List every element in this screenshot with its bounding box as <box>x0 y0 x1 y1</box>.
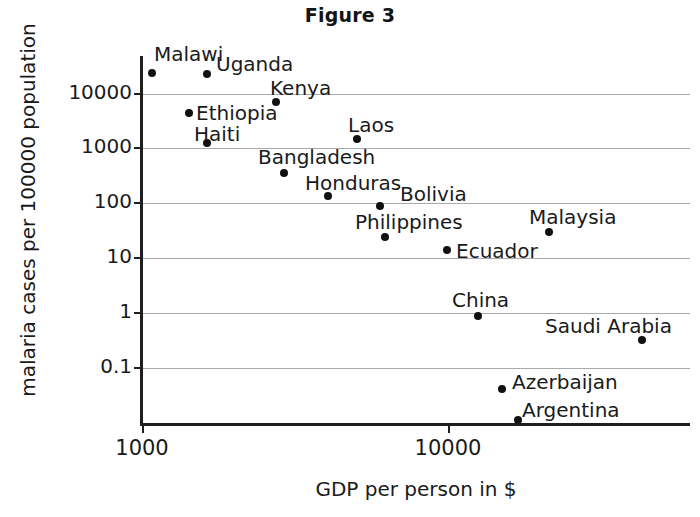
data-point[interactable] <box>474 312 482 320</box>
data-point-label: Malaysia <box>529 205 616 229</box>
data-point[interactable] <box>545 228 553 236</box>
data-point-label: Kenya <box>270 76 331 100</box>
data-point-label: Saudi Arabia <box>545 314 672 338</box>
gridline-y <box>142 148 690 149</box>
gridline-y <box>142 94 690 95</box>
y-axis-title: malaria cases per 100000 population <box>16 0 40 460</box>
data-point-label: Haiti <box>194 122 240 146</box>
data-point[interactable] <box>498 385 506 393</box>
data-point[interactable] <box>514 416 522 424</box>
data-point-label: Azerbaijan <box>512 370 618 394</box>
data-point-label: Bolivia <box>400 182 467 206</box>
y-tick-mark <box>134 147 143 149</box>
data-point[interactable] <box>280 169 288 177</box>
x-tick-mark <box>142 424 144 433</box>
data-point-label: Honduras <box>305 171 401 195</box>
x-axis-title: GDP per person in $ <box>142 477 690 501</box>
y-tick-mark <box>134 367 143 369</box>
data-point-label: Philippines <box>355 210 463 234</box>
x-tick-mark <box>448 424 450 433</box>
data-point[interactable] <box>381 233 389 241</box>
data-point-label: China <box>452 288 509 312</box>
data-point-label: Bangladesh <box>258 145 375 169</box>
y-tick-mark <box>134 312 143 314</box>
y-tick-mark <box>134 257 143 259</box>
x-tick-label: 1000 <box>62 436 222 460</box>
plot-area: 1000010001001010.1100010000MalawiUgandaK… <box>142 56 690 424</box>
data-point-label: Malawi <box>154 42 223 66</box>
y-tick-mark <box>134 202 143 204</box>
data-point-label: Argentina <box>522 398 620 422</box>
data-point[interactable] <box>443 246 451 254</box>
data-point-label: Uganda <box>216 52 293 76</box>
data-point[interactable] <box>203 70 211 78</box>
y-tick-mark <box>134 93 143 95</box>
data-point[interactable] <box>376 202 384 210</box>
figure-3-chart: Figure 3 1000010001001010.1100010000Mala… <box>0 0 700 517</box>
data-point[interactable] <box>185 109 193 117</box>
data-point[interactable] <box>148 69 156 77</box>
gridline-y <box>142 368 690 369</box>
chart-title: Figure 3 <box>0 4 700 26</box>
gridline-y <box>142 258 690 259</box>
data-point-label: Ecuador <box>456 239 538 263</box>
x-tick-label: 10000 <box>368 436 528 460</box>
data-point-label: Laos <box>348 113 394 137</box>
